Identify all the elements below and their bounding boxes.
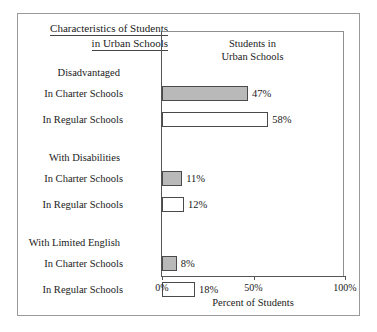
bar-category-label: In Regular Schools — [43, 114, 124, 125]
bar-category-label: In Charter Schools — [44, 173, 123, 184]
bar-category-label: In Charter Schools — [44, 88, 123, 99]
bar-value-label: 47% — [252, 88, 271, 99]
chart-title-line-1: Students in — [229, 38, 276, 49]
x-tick — [162, 276, 163, 280]
group-header: With Limited English — [29, 237, 120, 248]
x-tick-label: 100% — [333, 282, 356, 293]
x-tick — [345, 276, 346, 280]
plot-area — [161, 31, 344, 276]
figure-frame: Characteristics of Students in Urban Sch… — [17, 13, 360, 316]
caption-line-1: Characteristics of Students — [50, 21, 168, 36]
x-tick — [254, 276, 255, 280]
y-axis-line — [161, 31, 162, 277]
bar-regular — [162, 112, 268, 127]
bar-regular — [162, 197, 184, 212]
bar-charter — [162, 86, 248, 101]
bar-charter — [162, 256, 177, 271]
bar-category-label: In Regular Schools — [43, 284, 124, 295]
group-header: Disadvantaged — [58, 67, 120, 78]
figure-caption: Characteristics of Students in Urban Sch… — [28, 21, 168, 51]
chart-title: Students in Urban Schools — [161, 37, 344, 63]
x-axis-label: Percent of Students — [161, 297, 345, 308]
bar-value-label: 58% — [272, 114, 291, 125]
bar-value-label: 12% — [188, 199, 207, 210]
group-header: With Disabilities — [49, 152, 120, 163]
chart-title-line-2: Urban Schools — [221, 51, 283, 62]
bar-value-label: 11% — [186, 173, 205, 184]
bar-value-label: 18% — [199, 284, 218, 295]
bar-category-label: In Charter Schools — [44, 258, 123, 269]
x-tick-label: 50% — [244, 282, 262, 293]
caption-line-2: in Urban Schools — [92, 36, 168, 51]
x-tick-label: 0% — [155, 282, 168, 293]
bar-value-label: 8% — [181, 258, 195, 269]
bar-charter — [162, 171, 182, 186]
bar-category-label: In Regular Schools — [43, 199, 124, 210]
